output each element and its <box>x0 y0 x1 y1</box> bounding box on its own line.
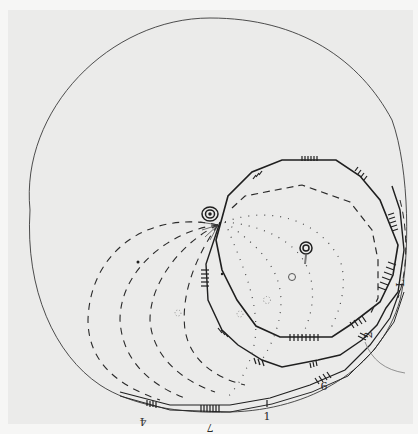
ink-dot <box>137 261 140 264</box>
label-L: L <box>394 279 407 287</box>
label-9: 9 <box>321 379 328 392</box>
center-shadow <box>305 255 306 264</box>
label-4: 4 <box>140 415 147 428</box>
label-2: 2 <box>362 332 375 339</box>
ink-dot-2 <box>221 273 223 275</box>
label-7: 7 <box>207 421 214 434</box>
paper-background <box>8 10 413 424</box>
sketch-diagram: 4 7 1 9 2 L <box>0 0 418 434</box>
label-1: 1 <box>264 410 271 423</box>
